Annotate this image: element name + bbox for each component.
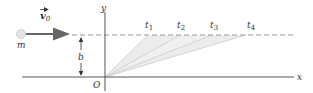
diagram-canvas: v0 m b O y x t1 t2 t3 t4: [0, 0, 313, 93]
time-label-t3: t3: [210, 20, 218, 32]
mass-label: m: [17, 40, 26, 50]
distance-b-label: b: [78, 52, 84, 62]
velocity-label: v0: [40, 10, 51, 23]
origin-label: O: [93, 80, 101, 90]
swept-area-wedges: [105, 35, 246, 77]
particle-icon: [17, 30, 26, 39]
time-label-t2: t2: [177, 20, 185, 32]
y-axis-label: y: [100, 3, 107, 13]
x-axis-label: x: [297, 72, 302, 82]
time-label-t4: t4: [247, 20, 256, 32]
time-label-t1: t1: [145, 20, 153, 32]
